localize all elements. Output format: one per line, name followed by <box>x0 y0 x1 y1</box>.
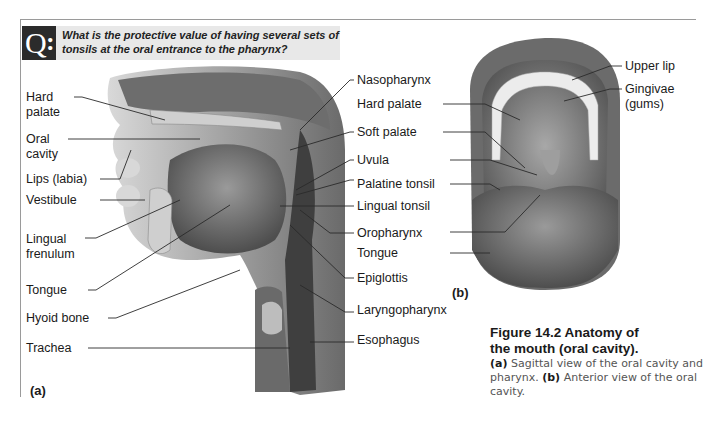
label-trachea: Trachea <box>26 341 71 356</box>
panel-label-a: (a) <box>30 383 46 398</box>
label-hard-palate-b: Hard palate <box>357 97 422 112</box>
label-uvula: Uvula <box>357 153 389 168</box>
label-tongue-b: Tongue <box>357 246 398 261</box>
label-tongue-a: Tongue <box>26 283 67 298</box>
anterior-view <box>470 38 620 290</box>
label-vestibule: Vestibule <box>26 193 77 208</box>
label-oropharynx: Oropharynx <box>357 226 422 241</box>
label-lingual-frenulum: Lingualfrenulum <box>26 232 75 262</box>
sagittal-view <box>108 66 345 395</box>
label-laryngopharynx: Laryngopharynx <box>357 303 447 318</box>
label-oral-cavity: Oralcavity <box>26 132 58 162</box>
label-hard-palate: Hardpalate <box>26 90 60 120</box>
caption-body: (a) Sagittal view of the oral cavity and… <box>490 357 716 399</box>
panel-label-b: (b) <box>452 285 469 300</box>
label-lingual-tonsil: Lingual tonsil <box>357 199 430 214</box>
label-palatine-tonsil: Palatine tonsil <box>357 177 435 192</box>
label-soft-palate: Soft palate <box>357 125 417 140</box>
caption-title: Figure 14.2 Anatomy ofthe mouth (oral ca… <box>490 325 716 357</box>
label-hyoid-bone: Hyoid bone <box>26 311 89 326</box>
label-upper-lip: Upper lip <box>625 59 675 74</box>
figure-caption: Figure 14.2 Anatomy ofthe mouth (oral ca… <box>490 325 716 399</box>
label-gingivae: Gingivae(gums) <box>625 82 674 112</box>
label-nasopharynx: Nasopharynx <box>357 73 431 88</box>
label-epiglottis: Epiglottis <box>357 271 408 286</box>
label-lips: Lips (labia) <box>26 172 87 187</box>
label-esophagus: Esophagus <box>357 333 420 348</box>
